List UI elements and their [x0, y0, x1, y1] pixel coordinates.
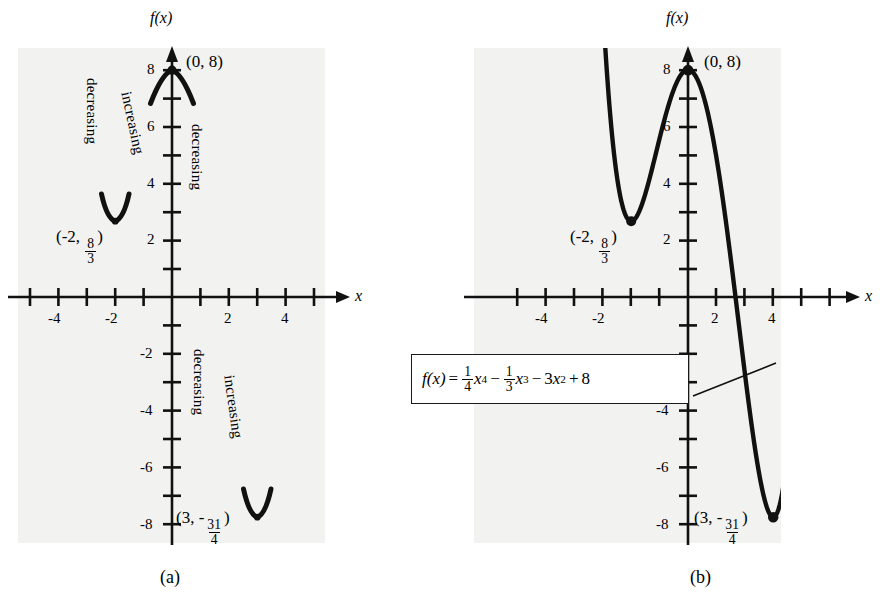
y-axis-label-b: f(x): [666, 10, 688, 26]
equation-term3-coefficient: 3: [544, 369, 553, 389]
equation-lhs: f(x): [422, 369, 446, 389]
local-min-left-numerator-b: 8: [599, 237, 610, 251]
y-tick-label-a-1: 6: [147, 119, 155, 134]
local-min-right-prefix-a: (3, -: [176, 508, 204, 527]
y-tick-label-b-1: 6: [663, 119, 671, 134]
annotation-decreasing-1-a: decreasing: [83, 78, 100, 144]
point-label-local-min-left-b: (-2, 83): [570, 228, 617, 265]
panel-a-caption: (a): [160, 568, 180, 586]
y-tick-label-a-0: 8: [147, 62, 155, 77]
local-min-left-numerator-a: 8: [85, 237, 96, 251]
local-min-right-denominator-b: 4: [727, 532, 738, 547]
y-tick-label-b-4: -4: [656, 403, 669, 418]
x-axis-label-b: x: [865, 288, 872, 304]
x-tick-label-a-3: 4: [281, 311, 289, 326]
x-axis-b: [464, 288, 860, 306]
quartic-curve-accurate-b: [603, 11, 809, 517]
local-min-left-prefix-b: (-2,: [570, 227, 598, 246]
local-min-left-fraction-a: 83: [85, 237, 96, 266]
x-tick-label-b-2: 2: [711, 311, 719, 326]
equation-term2-numerator: 1: [504, 365, 515, 379]
x-tick-label-a-1: -2: [105, 311, 118, 326]
equation-term1-variable: x: [474, 369, 482, 389]
equation-callout-box: f(x) = 14x4 − 13x3 − 3x2 + 8: [411, 354, 689, 404]
equation-operator-2: −: [529, 369, 545, 389]
x-axis-a: [8, 288, 350, 306]
y-tick-label-b-2: 4: [663, 176, 671, 191]
local-min-left-suffix-b: ): [611, 227, 617, 246]
equation-constant: 8: [582, 369, 591, 389]
local-min-right-prefix-b: (3, -: [694, 508, 722, 527]
annotation-decreasing-2-a: decreasing: [188, 124, 205, 190]
equation-term2-fraction: 13: [504, 365, 515, 394]
x-tick-label-b-0: -4: [535, 311, 548, 326]
panel-b-axes-svg: [446, 0, 891, 611]
x-tick-label-a-0: -4: [48, 311, 61, 326]
curve-fragment-local-min-left-a: [102, 194, 130, 225]
local-min-left-suffix-a: ): [97, 227, 103, 246]
equation-operator-1: −: [487, 369, 503, 389]
y-axis-b: [679, 46, 697, 545]
y-tick-label-a-7: -8: [140, 517, 153, 532]
y-tick-label-a-2: 4: [147, 176, 155, 191]
y-tick-label-b-3: 2: [663, 232, 671, 247]
local-min-left-denominator-b: 3: [599, 251, 610, 266]
panel-b: f(x) x -4 -2 2 4 8 6 4 2 -4 -6 -8 (0, 8)…: [446, 0, 891, 611]
y-tick-label-b-6: -8: [656, 517, 669, 532]
local-min-right-denominator-a: 4: [209, 532, 220, 547]
y-tick-label-a-3: 2: [147, 232, 155, 247]
equation-leader-line-b: [693, 363, 776, 396]
local-min-right-numerator-a: 31: [205, 518, 223, 532]
y-axis-label-a: f(x): [150, 10, 172, 26]
equation-operator-3: +: [566, 369, 582, 389]
x-tick-label-a-2: 2: [224, 311, 232, 326]
equation-equals: =: [446, 369, 462, 389]
local-min-left-prefix-a: (-2,: [56, 227, 84, 246]
y-tick-label-b-5: -6: [656, 460, 669, 475]
y-tick-label-b-0: 8: [663, 62, 671, 77]
x-tick-label-b-1: -2: [592, 311, 605, 326]
local-min-right-numerator-b: 31: [723, 518, 741, 532]
y-tick-label-a-5: -4: [140, 403, 153, 418]
panel-a: f(x) x -4 -2 2 4 8 6 4 2 -2 -4 -6 -8 (0,…: [0, 0, 445, 611]
equation-term2-denominator: 3: [504, 379, 515, 394]
y-tick-label-a-4: -2: [140, 346, 153, 361]
equation-term3-variable: x: [553, 369, 561, 389]
local-min-right-fraction-b: 314: [723, 518, 741, 547]
x-axis-label-a: x: [355, 288, 362, 304]
x-tick-label-b-3: 4: [768, 311, 776, 326]
y-tick-label-a-6: -6: [140, 460, 153, 475]
point-label-local-max-b: (0, 8): [704, 53, 741, 70]
point-label-local-min-left-a: (-2, 83): [56, 228, 103, 265]
local-min-right-fraction-a: 314: [205, 518, 223, 547]
equation-term1-numerator: 1: [462, 365, 473, 379]
local-min-right-suffix-b: ): [742, 508, 748, 527]
point-label-local-min-right-b: (3, -314): [694, 509, 748, 546]
equation-term1-denominator: 4: [462, 379, 473, 394]
equation-term2-variable: x: [516, 369, 524, 389]
y-axis-a: [163, 46, 181, 545]
figure-root: f(x) x -4 -2 2 4 8 6 4 2 -2 -4 -6 -8 (0,…: [0, 0, 891, 611]
annotation-decreasing-3-a: decreasing: [190, 349, 207, 415]
curve-fragment-local-min-right-a: [244, 489, 272, 521]
equation-term1-fraction: 14: [462, 365, 473, 394]
panel-b-caption: (b): [690, 568, 711, 586]
local-min-right-suffix-a: ): [224, 508, 230, 527]
point-label-local-max-a: (0, 8): [186, 53, 223, 70]
local-min-left-denominator-a: 3: [85, 251, 96, 266]
local-min-left-fraction-b: 83: [599, 237, 610, 266]
point-label-local-min-right-a: (3, -314): [176, 509, 230, 546]
